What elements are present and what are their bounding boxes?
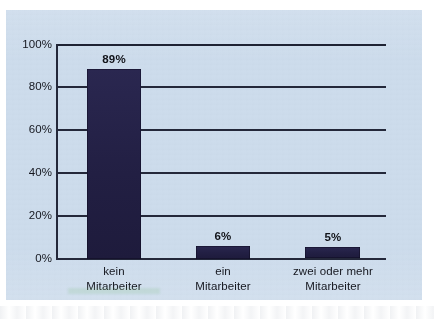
category-label-line2: Mitarbeiter (64, 279, 164, 294)
bar-zwei-oder-mehr-mitarbeiter (305, 247, 360, 258)
ytick-40-wrap: 40% (6, 166, 52, 178)
chart-panel: 100% 80% 60% 40% 20% 0% 89% kein Mitarb (6, 10, 422, 300)
chart-screenshot: 100% 80% 60% 40% 20% 0% 89% kein Mitarb (0, 0, 434, 319)
bar-kein-mitarbeiter (87, 69, 141, 259)
gridline-100 (56, 44, 386, 46)
plot-area: 100% 80% 60% 40% 20% 0% 89% kein Mitarb (6, 10, 422, 300)
bar-value-kein-mitarbeiter: 89% (77, 53, 151, 66)
bar-value-zwei-oder-mehr-mitarbeiter: 5% (296, 231, 370, 244)
category-label-line2: Mitarbeiter (173, 279, 273, 294)
ytick-label-100: 100% (6, 38, 52, 50)
category-label-line1: kein (103, 265, 125, 277)
category-label-line2: Mitarbeiter (277, 279, 389, 294)
ytick-0-wrap: 0% (6, 252, 52, 264)
category-label-zwei-oder-mehr-mitarbeiter: zwei oder mehr Mitarbeiter (277, 264, 389, 293)
category-label-ein-mitarbeiter: ein Mitarbeiter (173, 264, 273, 293)
bar-value-ein-mitarbeiter: 6% (186, 230, 260, 243)
ytick-label-40: 40% (6, 166, 52, 178)
ytick-label-20: 20% (6, 209, 52, 221)
bar-ein-mitarbeiter (196, 246, 250, 259)
category-label-kein-mitarbeiter: kein Mitarbeiter (64, 264, 164, 293)
ytick-label-0: 0% (6, 252, 52, 264)
ytick-80-wrap: 80% (6, 80, 52, 92)
ytick-60-wrap: 60% (6, 123, 52, 135)
scan-edge-artifact (0, 306, 434, 319)
axis-y-line (56, 44, 58, 260)
ytick-label-80: 80% (6, 80, 52, 92)
category-label-line1: ein (215, 265, 231, 277)
ytick-label-60: 60% (6, 123, 52, 135)
ytick-100-wrap: 100% (6, 38, 52, 50)
category-label-line1: zwei oder mehr (293, 265, 373, 277)
ytick-20-wrap: 20% (6, 209, 52, 221)
